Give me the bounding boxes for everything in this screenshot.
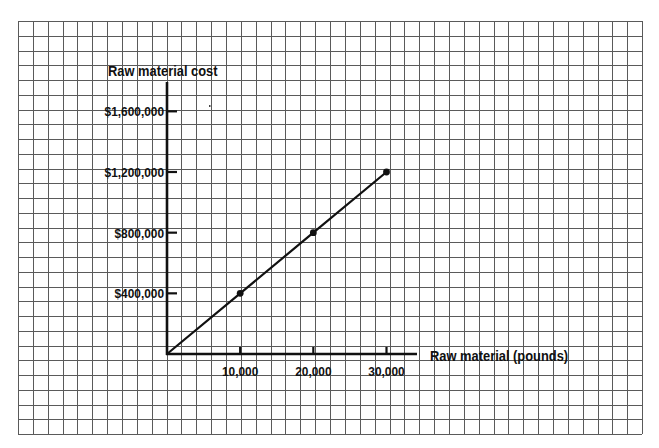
axes [166,82,417,355]
data-point [237,290,244,297]
y-tick-label: $400,000 [115,286,165,302]
x-tick-label: 20,000 [295,363,331,379]
x-axis-title: Raw material (pounds) [430,347,568,364]
y-tick-label: $1,600,000 [105,104,164,120]
line-chart: $400,000$800,000$1,200,000$1,600,000 10,… [0,0,659,448]
speck-artifact [209,105,211,107]
data-point [383,169,390,176]
data-series-line [167,172,387,354]
y-tick-label: $1,200,000 [105,164,164,180]
y-tick-label: $800,000 [115,225,165,241]
x-tick-label: 10,000 [222,363,258,379]
x-axis-ticks: 10,00020,00030,000 [222,347,405,379]
data-point [310,229,317,236]
x-tick-label: 30,000 [368,363,404,379]
y-axis-title: Raw material cost [108,62,218,79]
